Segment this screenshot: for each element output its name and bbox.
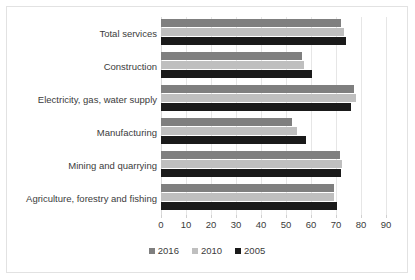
x-tick-mark [336,215,337,218]
x-tick-mark [286,215,287,218]
bar-2005[interactable] [161,70,312,78]
bar-2016[interactable] [161,52,302,60]
legend-swatch-icon [149,248,155,254]
bar-group [161,17,386,50]
plot-area [161,17,386,215]
gridline [386,17,387,215]
legend-label: 2005 [244,245,265,256]
x-tick-label: 70 [331,219,342,230]
bar-2010[interactable] [161,193,334,201]
legend-item-2005[interactable]: 2005 [235,245,265,256]
bar-2005[interactable] [161,103,351,111]
bar-group [161,182,386,215]
bar-group [161,50,386,83]
legend-swatch-icon [192,248,198,254]
category-label: Manufacturing [11,127,157,138]
category-label: Mining and quarrying [11,160,157,171]
chart-frame: Agriculture, forestry and fishingMining … [6,6,408,273]
x-tick-mark [186,215,187,218]
chart-legend: 201620102005 [7,245,407,256]
category-label: Agriculture, forestry and fishing [11,193,157,204]
x-axis: 0102030405060708090 [161,215,386,233]
legend-label: 2010 [201,245,222,256]
bar-2005[interactable] [161,136,306,144]
bar-2005[interactable] [161,169,341,177]
x-tick-mark [261,215,262,218]
x-tick-label: 60 [306,219,317,230]
x-tick-label: 30 [231,219,242,230]
bar-group [161,149,386,182]
x-tick-label: 20 [206,219,217,230]
x-tick-label: 90 [381,219,392,230]
bar-2010[interactable] [161,61,304,69]
bar-2005[interactable] [161,37,346,45]
bar-2010[interactable] [161,127,297,135]
category-label: Total services [11,28,157,39]
x-tick-mark [161,215,162,218]
x-tick-mark [236,215,237,218]
bar-2016[interactable] [161,19,341,27]
x-tick-mark [311,215,312,218]
bar-2010[interactable] [161,28,344,36]
category-label: Electricity, gas, water supply [11,94,157,105]
legend-item-2010[interactable]: 2010 [192,245,222,256]
y-axis-category-labels: Agriculture, forestry and fishingMining … [7,17,157,215]
legend-swatch-icon [235,248,241,254]
legend-item-2016[interactable]: 2016 [149,245,179,256]
bar-2016[interactable] [161,118,292,126]
bar-2016[interactable] [161,151,340,159]
bar-2010[interactable] [161,94,356,102]
x-tick-label: 80 [356,219,367,230]
category-label: Construction [11,61,157,72]
x-tick-label: 40 [256,219,267,230]
x-tick-mark [386,215,387,218]
x-tick-label: 0 [158,219,163,230]
x-tick-mark [361,215,362,218]
x-tick-label: 50 [281,219,292,230]
bar-2016[interactable] [161,85,354,93]
bar-group [161,83,386,116]
x-tick-label: 10 [181,219,192,230]
bar-2010[interactable] [161,160,342,168]
bar-2016[interactable] [161,184,334,192]
bar-2005[interactable] [161,202,337,210]
bar-group [161,116,386,149]
legend-label: 2016 [158,245,179,256]
x-tick-mark [211,215,212,218]
